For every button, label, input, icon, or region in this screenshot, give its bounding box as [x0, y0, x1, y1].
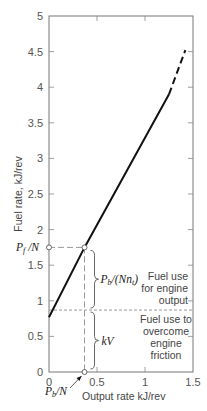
pf-over-n-label: Pf /N [15, 241, 40, 255]
engine-output-text: Fuel use [148, 270, 188, 282]
y-tick-label: 1 [37, 295, 43, 307]
fuel-rate-line-extrapolated [169, 50, 185, 94]
engine-output-text: for engine [141, 282, 188, 294]
y-tick-label: 3 [37, 152, 43, 164]
engine-output-term-label: Pb/(Nnt) [100, 273, 139, 287]
friction-text: overcome [143, 325, 189, 337]
pf-axis-marker [47, 245, 52, 250]
y-tick-label: 2 [37, 224, 43, 236]
pb-over-n-label: Pb/N [44, 385, 68, 399]
operating-point-marker [82, 245, 87, 250]
friction-brace [91, 312, 99, 369]
pb-axis-marker [82, 370, 87, 375]
y-tick-label: 1.5 [28, 259, 43, 271]
engine-output-text: output [159, 294, 188, 306]
y-tick-label: 0 [37, 366, 43, 378]
y-tick-label: 5 [37, 10, 43, 22]
x-tick-label: 0.5 [89, 376, 104, 388]
x-tick-label: 1.5 [185, 376, 200, 388]
y-axis-label: Fuel rate, kJ/rev [12, 156, 24, 232]
friction-text: engine [150, 337, 182, 349]
kv-label: kV [102, 335, 116, 347]
y-tick-label: 0.5 [28, 330, 43, 342]
fuel-rate-chart: 00.511.522.533.544.5500.511.5 Pf /NPb/NP… [0, 0, 207, 411]
y-tick-label: 3.5 [28, 117, 43, 129]
friction-text: friction [151, 349, 182, 361]
y-tick-label: 4.5 [28, 46, 43, 58]
x-tick-label: 1 [142, 376, 148, 388]
engine-output-brace [91, 250, 99, 308]
y-tick-label: 4 [37, 81, 43, 93]
friction-text: Fuel use to [140, 313, 192, 325]
x-axis-label: Output rate kJ/rev [82, 390, 166, 402]
y-tick-label: 2.5 [28, 188, 43, 200]
